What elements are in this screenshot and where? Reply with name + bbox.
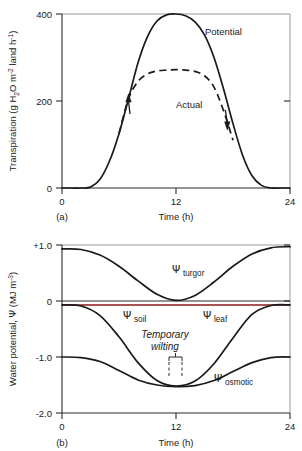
panel-b-xtick-label-0: 0	[59, 421, 64, 432]
psi-subscript-soil: soil	[134, 315, 146, 324]
annotation-line-2: wilting	[151, 341, 179, 352]
svg-text:Water potential, Ψ (MJ m-3): Water potential, Ψ (MJ m-3)	[7, 272, 18, 386]
panel-b-ylabel-part1: Water potential,	[7, 317, 18, 386]
panel-a-label: (a)	[56, 211, 68, 222]
panel-b-ytick-label-plus1: +1.0	[33, 240, 52, 251]
panel-b-label: (b)	[56, 437, 68, 448]
figure-container: 400 200 0 0 12 24 Time (h) (a) Transpira…	[0, 0, 302, 451]
panel-a-ylabel-part2: O m	[7, 74, 18, 92]
panel-b-ytick-label-minus2: -2.0	[36, 408, 52, 419]
curve-psi-osmotic	[62, 357, 290, 387]
panel-b-ytick-label-minus1: -1.0	[36, 352, 52, 363]
curve-label-psi-soil: Ψ soil	[123, 309, 146, 324]
wilting-bracket	[169, 357, 182, 361]
panel-a-ylabel-part1: Transpiration (g H	[7, 96, 18, 172]
panel-a-ytick-label-200: 200	[36, 96, 52, 107]
panel-a-xtick-label-12: 12	[171, 196, 182, 207]
psi-symbol-osmotic: Ψ	[214, 372, 222, 384]
panel-a-ylabel-part3: land h	[7, 40, 18, 69]
panel-b-y-axis-title: Water potential, Ψ (MJ m-3)	[7, 272, 18, 386]
panel-b-x-axis-title: Time (h)	[158, 437, 193, 448]
panel-a-ytick-label-0: 0	[47, 183, 52, 194]
curve-label-potential: Potential	[205, 26, 242, 37]
annotation-line-1: Temporary	[141, 329, 189, 340]
panel-a-xtick-label-0: 0	[59, 196, 64, 207]
psi-symbol-turgor: Ψ	[172, 263, 180, 275]
temporary-wilting-annotation: Temporary wilting	[141, 329, 189, 378]
panel-b-water-potential-chart: +1.0 0 -1.0 -2.0 0 12 24 Time (h) (b) Wa…	[0, 225, 302, 451]
psi-subscript-turgor: turgor	[183, 269, 205, 278]
panel-b-ylabel-end: )	[7, 272, 18, 275]
panel-b-ylabel-psi: Ψ	[7, 310, 18, 317]
svg-text:Transpiration (g H2O m-2 land: Transpiration (g H2O m-2 land h-1)	[7, 31, 20, 172]
curve-label-actual: Actual	[176, 99, 202, 110]
panel-b-xtick-label-12: 12	[171, 421, 182, 432]
psi-subscript-leaf: leaf	[214, 315, 228, 324]
psi-symbol-leaf: Ψ	[203, 309, 211, 321]
psi-symbol-soil: Ψ	[123, 309, 131, 321]
flow-arrow-tail-0	[129, 101, 131, 114]
panel-b-ytick-label-0: 0	[47, 296, 52, 307]
panel-a-xtick-label-24: 24	[285, 196, 296, 207]
panel-a-ytick-label-400: 400	[36, 9, 52, 20]
panel-b-ylabel-unit: (MJ m	[7, 281, 18, 310]
panel-a-ylabel-part4: )	[7, 31, 18, 34]
psi-subscript-osmotic: osmotic	[225, 378, 253, 387]
curve-label-psi-leaf: Ψ leaf	[203, 309, 228, 324]
curve-label-psi-osmotic: Ψ osmotic	[214, 372, 253, 387]
panel-b-xtick-label-24: 24	[285, 421, 296, 432]
panel-a-transpiration-chart: 400 200 0 0 12 24 Time (h) (a) Transpira…	[0, 0, 302, 225]
panel-a-x-axis-title: Time (h)	[158, 211, 193, 222]
curve-label-psi-turgor: Ψ turgor	[172, 263, 205, 278]
panel-a-y-axis-title: Transpiration (g H2O m-2 land h-1)	[7, 31, 20, 172]
